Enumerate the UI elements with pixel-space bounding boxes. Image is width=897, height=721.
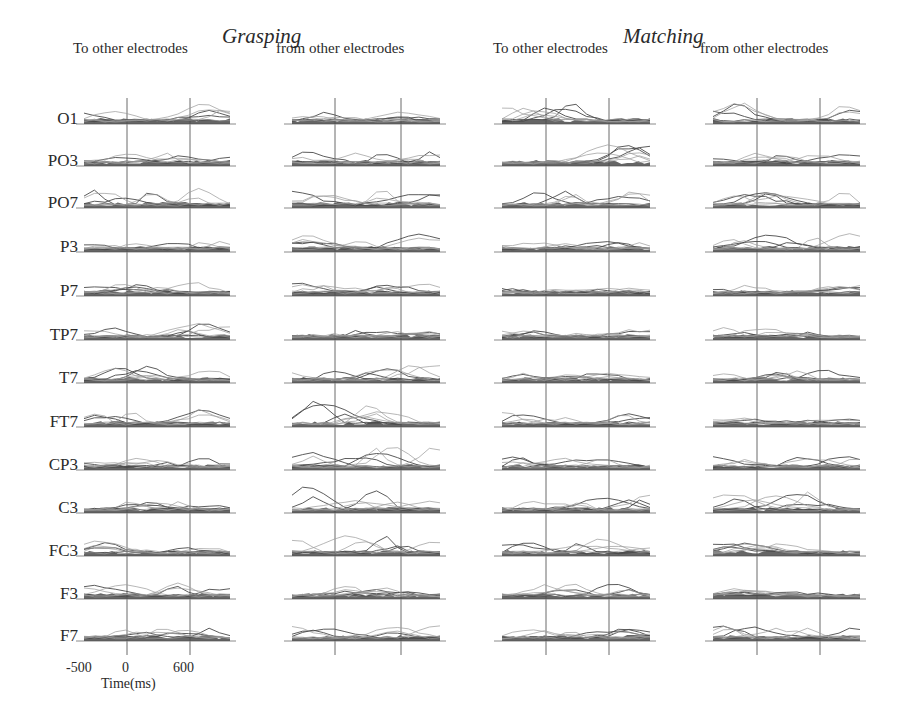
- trace-group-t7: [76, 366, 236, 383]
- trace-group-po7: [76, 188, 236, 208]
- trace-group-cp3: [494, 457, 656, 470]
- trace-group-ft7: [76, 409, 236, 427]
- trace-group-o1: [284, 112, 446, 124]
- trace-group-cp3: [284, 448, 446, 470]
- trace-group-t7: [705, 370, 866, 383]
- trace-group-cp3: [705, 457, 866, 470]
- trace-group-fc3: [705, 543, 866, 556]
- trace-group-po7: [494, 191, 656, 208]
- x-tick-600: 600: [173, 660, 194, 676]
- trace-group-o1: [76, 105, 236, 125]
- trace-group-p7: [76, 283, 236, 296]
- trace-group-p7: [284, 283, 446, 296]
- trace-group-po3: [494, 145, 656, 166]
- trace-group-tp7: [76, 324, 236, 341]
- trace-group-cp3: [76, 458, 236, 470]
- trace-group-f3: [705, 589, 866, 599]
- trace-group-ft7: [494, 413, 656, 427]
- trace-group-tp7: [284, 331, 446, 341]
- trace-group-t7: [494, 373, 656, 383]
- trace-group-t7: [284, 366, 446, 383]
- x-axis-label: Time(ms): [101, 676, 156, 692]
- trace-group-p3: [76, 242, 236, 253]
- trace-group-ft7: [284, 401, 446, 427]
- trace-group-ft7: [705, 418, 866, 427]
- trace-group-p3: [284, 234, 446, 252]
- trace-group-tp7: [705, 328, 866, 340]
- trace-group-o1: [705, 103, 866, 124]
- trace-group-po3: [705, 153, 866, 166]
- trace-group-po7: [284, 191, 446, 208]
- trace-group-c3: [284, 487, 446, 513]
- trace-group-o1: [494, 104, 656, 124]
- trace-group-po3: [284, 152, 446, 166]
- trace-group-po3: [76, 153, 236, 166]
- trace-group-f3: [494, 584, 656, 599]
- trace-group-fc3: [284, 536, 446, 556]
- trace-group-po7: [705, 193, 866, 208]
- trace-group-c3: [705, 492, 866, 513]
- trace-group-p7: [705, 285, 866, 296]
- trace-group-f3: [76, 583, 236, 599]
- trace-group-f7: [76, 628, 236, 641]
- trace-group-f7: [705, 626, 866, 641]
- trace-group-p3: [494, 242, 656, 252]
- trace-group-f7: [494, 629, 656, 641]
- trace-group-tp7: [494, 330, 656, 340]
- x-tick-0: 0: [122, 660, 129, 676]
- trace-group-fc3: [494, 539, 656, 556]
- trace-group-c3: [494, 495, 656, 513]
- trace-group-f3: [284, 587, 446, 599]
- x-tick-neg500: -500: [66, 660, 92, 676]
- eeg-traces-plot: [0, 0, 897, 721]
- trace-group-fc3: [76, 541, 236, 556]
- trace-group-f7: [284, 626, 446, 641]
- trace-group-p3: [705, 234, 866, 252]
- trace-group-c3: [76, 502, 236, 513]
- trace-group-p7: [494, 288, 656, 296]
